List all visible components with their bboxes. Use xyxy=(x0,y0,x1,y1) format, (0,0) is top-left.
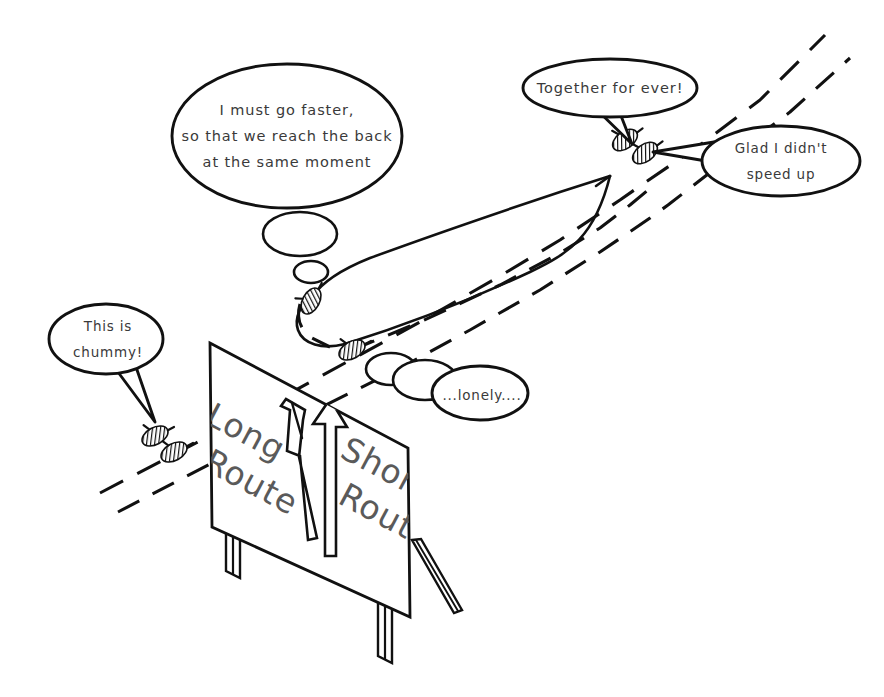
thought-bubble-go-faster-line3: at the same moment xyxy=(203,154,372,170)
signboard-brace-edge xyxy=(416,540,458,611)
thought-bubble-go-faster-trail-small xyxy=(294,261,328,283)
thought-bubble-go-faster: I must go faster, so that we reach the b… xyxy=(172,64,402,283)
speech-bubble-this-is-chummy: This is chummy! xyxy=(49,304,163,422)
thought-bubble-go-faster-line1: I must go faster, xyxy=(220,102,355,118)
thought-bubble-go-faster-trail-large xyxy=(263,212,337,256)
speech-bubble-glad-not-sped-up-line2: speed up xyxy=(747,166,816,182)
speech-bubble-this-is-chummy-body xyxy=(49,304,163,374)
long-route-loop-lower-arm xyxy=(345,176,610,344)
speech-bubble-together-forever: Together for ever! xyxy=(523,59,697,144)
speech-bubble-together-forever-text: Together for ever! xyxy=(536,80,684,96)
scene-canvas: Long Route Short Route xyxy=(0,0,884,697)
thought-bubble-go-faster-line2: so that we reach the back xyxy=(181,128,392,144)
thought-bubble-lonely-text: ...lonely.... xyxy=(442,387,521,403)
speech-bubble-this-is-chummy-line1: This is xyxy=(83,318,132,334)
speech-bubble-glad-not-sped-up-line1: Glad I didn't xyxy=(735,140,827,156)
cartoon-scene: Long Route Short Route xyxy=(0,0,884,697)
speech-bubble-this-is-chummy-line2: chummy! xyxy=(73,344,143,360)
speech-bubble-this-is-chummy-tail xyxy=(115,367,155,422)
speech-bubble-glad-not-sped-up-body xyxy=(702,126,860,196)
thought-bubble-lonely: ...lonely.... xyxy=(366,353,528,420)
speech-bubble-glad-not-sped-up: Glad I didn't speed up xyxy=(653,126,860,196)
